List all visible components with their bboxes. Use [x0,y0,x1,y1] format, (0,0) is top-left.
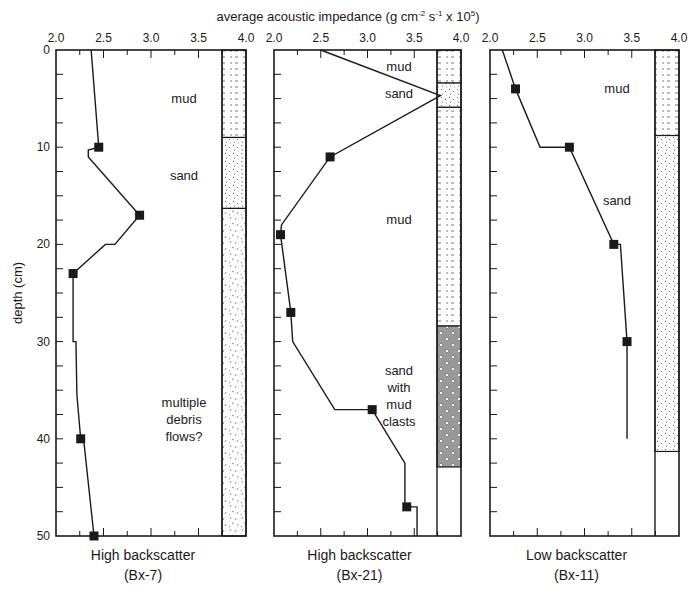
x-tick-label: 3.0 [143,31,160,45]
x-tick-label: 2.5 [312,31,329,45]
panel-caption: High backscatter [307,547,412,563]
y-tick-label: 30 [37,335,51,349]
plot-frame [56,50,246,536]
lithology-label: multiple [162,395,207,410]
lithology-unit-mud [437,50,461,83]
plot-frame [490,50,679,536]
panels: 2.02.53.03.54.0mudsandmultipledebrisflow… [48,31,688,583]
lithology-label: sand [603,193,631,208]
lithology-label: mud [386,212,411,227]
x-tick-label: 3.0 [359,31,376,45]
x-tick-label: 2.0 [48,31,65,45]
panel-caption: High backscatter [91,547,196,563]
lithology-unit-mud [222,50,246,137]
lithology-unit-clasts [437,326,461,467]
data-marker [94,143,103,152]
lithology-unit-debris [222,208,246,536]
y-tick-label: 40 [37,432,51,446]
lithology-unit-mud [437,107,461,326]
lithology-unit-mud [655,50,679,136]
data-marker [511,84,520,93]
x-tick-label: 2.5 [529,31,546,45]
x-tick-label: 2.5 [95,31,112,45]
lithology-label: mud [386,397,411,412]
data-marker [326,152,335,161]
lithology-label: mud [171,91,196,106]
x-tick-label: 3.5 [190,31,207,45]
impedance-line [73,50,140,536]
panel-caption-id: (Bx-11) [554,567,599,583]
y-axis-tick-labels: 01020304050 [37,43,51,543]
data-marker [565,143,574,152]
panel-bx-21: 2.02.53.03.54.0mudsandmudsandwithmudclas… [266,31,470,583]
lithology-label: sand [385,363,413,378]
impedance-line [502,50,627,439]
data-marker [276,230,285,239]
data-marker [368,405,377,414]
impedance-depth-figure: average acoustic impedance (g cm-2 s-1 x… [0,0,696,589]
panel-bx-11: 2.02.53.03.54.0mudsandLow backscatter(Bx… [482,31,688,583]
x-tick-label: 3.5 [623,31,640,45]
data-marker [609,240,618,249]
y-tick-label: 10 [37,140,51,154]
y-tick-label: 20 [37,237,51,251]
data-marker [76,434,85,443]
lithology-label: debris [166,412,202,427]
impedance-line [281,50,441,536]
plot-frame [274,50,461,536]
panel-bx-7: 2.02.53.03.54.0mudsandmultipledebrisflow… [48,31,255,583]
lithology-unit-sand [655,136,679,452]
panel-caption: Low backscatter [526,547,627,563]
data-marker [69,269,78,278]
x-tick-label: 3.0 [576,31,593,45]
x-tick-label: 4.0 [453,31,470,45]
panel-caption-id: (Bx-7) [124,567,162,583]
lithology-label: mud [604,81,629,96]
x-tick-label: 2.0 [266,31,283,45]
lithology-label: with [386,380,410,395]
panel-caption-id: (Bx-21) [337,567,383,583]
x-tick-label: 2.0 [482,31,499,45]
lithology-label: flows? [166,429,203,444]
lithology-unit-sand [222,137,246,208]
y-tick-label: 50 [37,529,51,543]
lithology-label: sand [170,168,198,183]
data-marker [623,337,632,346]
lithology-label: mud [386,59,411,74]
x-tick-label: 3.5 [406,31,423,45]
data-marker [135,211,144,220]
lithology-label: clasts [382,414,416,429]
data-marker [90,532,99,541]
data-marker [286,308,295,317]
y-axis-title: depth (cm) [10,262,25,324]
x-tick-label: 4.0 [671,31,688,45]
lithology-label: sand [385,86,413,101]
data-marker [402,502,411,511]
x-axis-title: average acoustic impedance (g cm-2 s-1 x… [217,9,480,24]
y-tick-label: 0 [43,43,50,57]
x-tick-label: 4.0 [238,31,255,45]
